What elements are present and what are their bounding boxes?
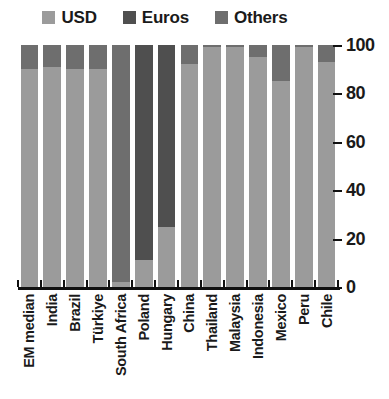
bar-slot bbox=[292, 45, 315, 287]
y-axis-tick-label: 60 bbox=[346, 133, 365, 151]
x-axis-tick bbox=[154, 280, 156, 287]
bar-segment-others bbox=[89, 45, 107, 69]
y-axis-tick bbox=[333, 93, 342, 95]
bar-segment-others bbox=[66, 45, 84, 69]
bar-segment-usd bbox=[249, 57, 267, 287]
legend-swatch-icon bbox=[123, 11, 136, 24]
x-label-slot: Brazil bbox=[64, 292, 87, 397]
bar-peru[interactable] bbox=[295, 45, 313, 287]
x-label-slot: Poland bbox=[132, 292, 155, 397]
x-label-slot: Mexico bbox=[269, 292, 292, 397]
bar-segment-usd bbox=[66, 69, 84, 287]
bar-segment-others bbox=[112, 45, 130, 282]
bar-segment-others bbox=[181, 45, 199, 64]
bar-slot bbox=[224, 45, 247, 287]
x-label-slot: Thailand bbox=[201, 292, 224, 397]
bar-china[interactable] bbox=[181, 45, 199, 287]
x-axis-category-label: Poland bbox=[136, 294, 151, 341]
bar-mexico[interactable] bbox=[272, 45, 290, 287]
bar-south-africa[interactable] bbox=[112, 45, 130, 287]
bar-slot bbox=[269, 45, 292, 287]
y-axis-tick bbox=[333, 287, 342, 289]
bar-slot bbox=[132, 45, 155, 287]
bar-malaysia[interactable] bbox=[226, 45, 244, 287]
x-label-slot: India bbox=[41, 292, 64, 397]
legend-item-usd[interactable]: USD bbox=[42, 9, 96, 26]
legend-item-euros[interactable]: Euros bbox=[123, 9, 189, 26]
y-axis-tick-label: 0 bbox=[346, 278, 356, 296]
y-axis-tick bbox=[333, 45, 342, 47]
x-axis-tick bbox=[314, 280, 316, 287]
x-axis-tick bbox=[246, 280, 248, 287]
y-axis: 020406080100 bbox=[333, 38, 389, 296]
legend-label: Euros bbox=[142, 9, 189, 26]
bar-hungary[interactable] bbox=[158, 45, 176, 287]
x-axis-category-label: Hungary bbox=[159, 294, 174, 351]
bar-segment-usd bbox=[21, 69, 39, 287]
x-axis-tick bbox=[131, 280, 133, 287]
x-axis-category-label: EM median bbox=[22, 294, 37, 368]
bar-slot bbox=[109, 45, 132, 287]
x-axis-category-label: Malaysia bbox=[228, 294, 243, 352]
bar-segment-usd bbox=[181, 64, 199, 287]
legend-item-others[interactable]: Others bbox=[215, 9, 288, 26]
x-axis-tick bbox=[177, 280, 179, 287]
bar-thailand[interactable] bbox=[203, 45, 221, 287]
legend-swatch-icon bbox=[215, 11, 228, 24]
bar-segment-usd bbox=[295, 47, 313, 287]
bar-segment-usd bbox=[135, 260, 153, 287]
bar-slot bbox=[18, 45, 41, 287]
y-axis-tick bbox=[333, 239, 342, 241]
x-axis-labels: EM medianIndiaBrazilTürkiyeSouth AfricaP… bbox=[18, 292, 338, 397]
y-axis-tick bbox=[333, 142, 342, 144]
bars-container bbox=[18, 45, 338, 287]
y-axis-tick bbox=[333, 190, 342, 192]
bar-segment-usd bbox=[89, 69, 107, 287]
x-axis-tick bbox=[337, 280, 339, 287]
bar-segment-usd bbox=[226, 47, 244, 287]
bar-segment-usd bbox=[158, 227, 176, 288]
bar-segment-usd bbox=[43, 67, 61, 287]
bar-segment-others bbox=[272, 45, 290, 81]
x-axis-tick bbox=[17, 280, 19, 287]
bar-slot bbox=[201, 45, 224, 287]
bar-t-rkiye[interactable] bbox=[89, 45, 107, 287]
x-axis-tick bbox=[291, 280, 293, 287]
bar-segment-others bbox=[249, 45, 267, 57]
plot-area bbox=[18, 45, 338, 287]
x-axis-tick bbox=[63, 280, 65, 287]
bar-india[interactable] bbox=[43, 45, 61, 287]
x-axis-tick bbox=[268, 280, 270, 287]
bar-poland[interactable] bbox=[135, 45, 153, 287]
x-label-slot: Chile bbox=[315, 292, 338, 397]
legend-label: USD bbox=[61, 9, 96, 26]
x-label-slot: China bbox=[178, 292, 201, 397]
bar-segment-euros bbox=[158, 45, 176, 227]
legend-swatch-icon bbox=[42, 11, 55, 24]
x-axis-category-label: China bbox=[182, 294, 197, 333]
x-label-slot: South Africa bbox=[109, 292, 132, 397]
x-label-slot: Malaysia bbox=[224, 292, 247, 397]
bar-slot bbox=[87, 45, 110, 287]
bar-segment-others bbox=[43, 45, 61, 67]
x-axis-category-label: Indonesia bbox=[251, 294, 266, 359]
bar-em-median[interactable] bbox=[21, 45, 39, 287]
x-axis-tick bbox=[40, 280, 42, 287]
bar-segment-others bbox=[21, 45, 39, 69]
bar-segment-usd bbox=[203, 47, 221, 287]
x-axis-category-label: Brazil bbox=[68, 294, 83, 332]
y-axis-tick-label: 80 bbox=[346, 84, 365, 102]
x-axis-tick bbox=[86, 280, 88, 287]
y-axis-tick-label: 100 bbox=[346, 36, 375, 54]
x-axis-category-label: India bbox=[45, 294, 60, 326]
x-axis-category-label: South Africa bbox=[114, 294, 129, 376]
x-axis-category-label: Türkiye bbox=[91, 294, 106, 343]
x-label-slot: Türkiye bbox=[87, 292, 110, 397]
x-axis-tick bbox=[200, 280, 202, 287]
legend-label: Others bbox=[234, 9, 288, 26]
bar-indonesia[interactable] bbox=[249, 45, 267, 287]
stacked-bar-chart: USDEurosOthers 020406080100 EM medianInd… bbox=[0, 0, 389, 399]
x-axis-category-label: Peru bbox=[296, 294, 311, 325]
bar-slot bbox=[155, 45, 178, 287]
bar-brazil[interactable] bbox=[66, 45, 84, 287]
